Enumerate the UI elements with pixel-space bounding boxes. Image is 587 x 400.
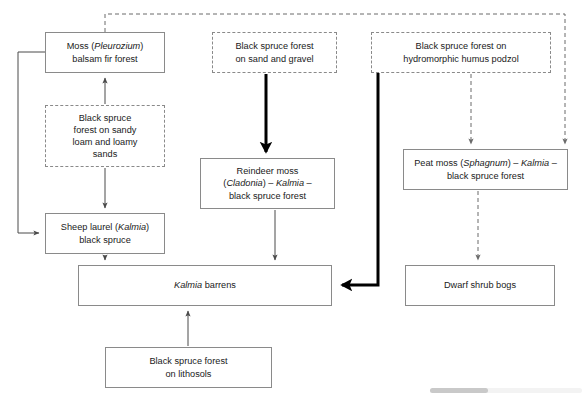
reindeer-moss-cladonia-kalmia-black-spruce-label: Reindeer moss(Cladonia) – Kalmia –black … bbox=[223, 165, 311, 202]
dwarf-shrub-bogs-box[interactable]: Dwarf shrub bogs bbox=[405, 265, 555, 306]
black-spruce-forest-sand-and-gravel-box[interactable]: Black spruce foreston sand and gravel bbox=[212, 32, 337, 73]
black-spruce-forest-sand-and-gravel-label: Black spruce foreston sand and gravel bbox=[235, 40, 313, 64]
horizontal-scrollbar-thumb[interactable] bbox=[430, 388, 488, 393]
diagram-canvas: Moss (Pleurozium)balsam fir forest Black… bbox=[0, 0, 587, 400]
moss-pleurozium-balsam-fir-forest-label: Moss (Pleurozium)balsam fir forest bbox=[67, 40, 144, 64]
reindeer-moss-cladonia-kalmia-black-spruce-box[interactable]: Reindeer moss(Cladonia) – Kalmia –black … bbox=[200, 158, 335, 209]
dwarf-shrub-bogs-label: Dwarf shrub bogs bbox=[444, 279, 516, 291]
horizontal-scrollbar[interactable] bbox=[430, 388, 582, 393]
black-spruce-forest-sandy-loam-box[interactable]: Black spruceforest on sandyloam and loam… bbox=[45, 105, 165, 167]
black-spruce-forest-sandy-loam-label: Black spruceforest on sandyloam and loam… bbox=[73, 112, 138, 161]
peat-moss-sphagnum-kalmia-black-spruce-box[interactable]: Peat moss (Sphagnum) – Kalmia –black spr… bbox=[403, 149, 568, 190]
peat-moss-sphagnum-kalmia-black-spruce-label: Peat moss (Sphagnum) – Kalmia –black spr… bbox=[414, 157, 557, 181]
sheep-laurel-kalmia-black-spruce-box[interactable]: Sheep laurel (Kalmia)black spruce bbox=[45, 213, 165, 254]
black-spruce-forest-on-lithosols-box[interactable]: Black spruce foreston lithosols bbox=[105, 347, 272, 388]
arrow-hydromorphic-to-kalmia-barrens bbox=[342, 73, 378, 285]
kalmia-barrens-label: Kalmia barrens bbox=[174, 279, 236, 291]
sheep-laurel-kalmia-black-spruce-label: Sheep laurel (Kalmia)black spruce bbox=[61, 221, 149, 245]
kalmia-barrens-box[interactable]: Kalmia barrens bbox=[78, 265, 332, 306]
moss-pleurozium-balsam-fir-forest-box[interactable]: Moss (Pleurozium)balsam fir forest bbox=[45, 32, 165, 73]
black-spruce-forest-on-lithosols-label: Black spruce foreston lithosols bbox=[149, 355, 227, 379]
arrow-moss-loop-to-sheep-laurel bbox=[18, 52, 45, 233]
black-spruce-forest-hydromorphic-humus-podzol-box[interactable]: Black spruce forest onhydromorphic humus… bbox=[371, 32, 551, 73]
black-spruce-forest-hydromorphic-humus-podzol-label: Black spruce forest onhydromorphic humus… bbox=[403, 40, 518, 64]
